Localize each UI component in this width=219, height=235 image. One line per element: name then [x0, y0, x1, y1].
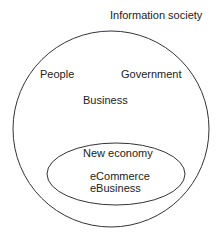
ebusiness-label: eBusiness	[90, 182, 141, 194]
ecommerce-label: eCommerce	[90, 170, 150, 182]
government-label: Government	[121, 68, 182, 80]
diagram-shapes	[0, 0, 219, 235]
people-label: People	[40, 68, 74, 80]
information-society-circle	[13, 31, 209, 227]
business-label: Business	[83, 94, 128, 106]
new-economy-label: New economy	[83, 147, 153, 159]
information-society-label: Information society	[110, 9, 202, 21]
